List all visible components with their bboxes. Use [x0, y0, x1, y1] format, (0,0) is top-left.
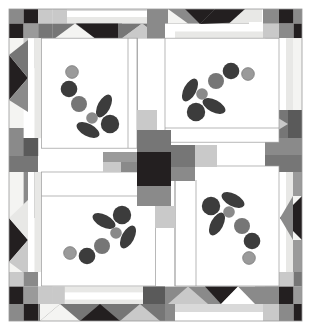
quilt-canvas — [0, 0, 311, 330]
corner-cell — [9, 287, 24, 304]
strip-left-white — [28, 38, 35, 138]
center-accent-right — [195, 145, 217, 167]
strip-br-cap — [165, 304, 175, 321]
corner-cell — [24, 304, 39, 321]
center-arm-top — [137, 130, 171, 152]
geese-divider — [118, 24, 122, 39]
corner-cell — [294, 9, 302, 24]
center-square — [137, 152, 171, 186]
corner-cell — [9, 9, 24, 24]
center-accent-left — [103, 162, 121, 172]
corner-cell — [24, 9, 39, 24]
strip-left-white-lower — [28, 172, 35, 272]
corner-cell — [24, 24, 39, 39]
strip-left-pale-lower — [35, 172, 42, 272]
strip-br-cap2 — [263, 304, 279, 321]
strip-bottom-cap2 — [38, 287, 53, 304]
corner-cell — [265, 287, 279, 304]
strip-br-white — [175, 312, 263, 321]
strip-bottom-white2 — [65, 300, 143, 304]
left-sash-mid3 — [24, 138, 39, 156]
strip-bottom-cap — [53, 287, 65, 304]
strip-white-right — [175, 25, 263, 32]
right-edge-gray2 — [293, 172, 302, 196]
corner-cell — [294, 272, 302, 287]
corner-cell — [38, 24, 53, 39]
border-left — [9, 38, 42, 276]
sash-top-center — [147, 9, 165, 38]
center-arm-bottom — [137, 186, 171, 206]
corner-cell — [279, 304, 294, 321]
corner-cell — [263, 9, 279, 24]
geese-br-end — [255, 287, 265, 304]
strip-pale-right — [175, 32, 263, 39]
block-bg-bottom-right — [175, 166, 279, 286]
corner-cell — [279, 272, 294, 287]
corner-cell — [9, 24, 24, 39]
quilt-body — [9, 9, 302, 321]
strip-pale — [67, 17, 147, 24]
corner-cell — [279, 287, 294, 304]
corner-cell — [294, 304, 302, 321]
strip-left-pale — [35, 38, 42, 138]
corner-cell — [24, 287, 39, 304]
strip-edge-right — [263, 24, 279, 39]
center-arm-left-2 — [103, 152, 137, 162]
center-accent-upper — [137, 110, 157, 130]
corner-cell — [24, 272, 39, 287]
quilt-pattern-diagram — [0, 0, 311, 330]
strip-left-cap — [9, 128, 24, 138]
strip-white — [67, 11, 147, 17]
center-arm-right-2 — [171, 167, 195, 181]
center-accent-lower — [155, 206, 175, 228]
block-bg-top-right — [165, 38, 279, 142]
corner-cell — [294, 287, 302, 304]
right-corner-dark — [288, 110, 302, 138]
corner-cell — [38, 9, 53, 24]
corner-cell — [9, 272, 24, 287]
left-sash-mid2 — [9, 156, 38, 172]
strip-gray — [53, 9, 67, 24]
corner-cell — [9, 304, 24, 321]
corner-cell — [279, 9, 294, 24]
corner-cell — [279, 24, 294, 39]
sash-bottom-center — [143, 287, 165, 304]
right-edge-gray — [293, 240, 302, 272]
strip-br-pale — [175, 304, 263, 312]
corner-cell — [294, 24, 302, 39]
